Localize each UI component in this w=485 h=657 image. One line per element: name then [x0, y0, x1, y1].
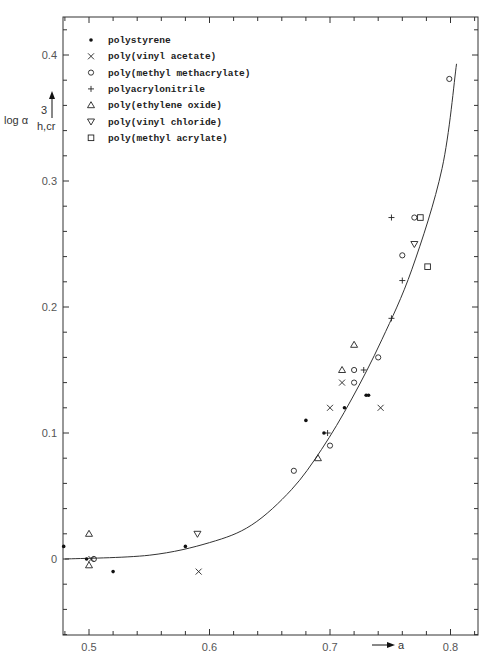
y-tick-label: 0.3 [42, 175, 57, 187]
triangle-up-marker-icon [339, 367, 346, 373]
y-tick-label: 0.4 [42, 49, 57, 61]
triangle-down-marker-icon [88, 119, 95, 125]
series-poly-methyl-acrylate- [418, 215, 431, 270]
triangle-up-marker-icon [86, 530, 93, 536]
circle-marker-icon [327, 443, 332, 448]
y-arrowhead-icon [49, 91, 55, 99]
square-marker-icon [418, 215, 424, 221]
legend: polystyrenepoly(vinyl acetate)poly(methy… [88, 35, 251, 144]
legend-label: poly(vinyl acetate) [108, 51, 216, 62]
circle-marker-icon [447, 76, 452, 81]
series-polystyrene [62, 393, 370, 573]
dot-marker-icon [343, 406, 347, 410]
dot-marker-icon [62, 545, 66, 549]
legend-label: polystyrene [108, 35, 171, 46]
circle-marker-icon [88, 70, 93, 75]
x-tick-label: 0.7 [322, 641, 337, 653]
square-marker-icon [88, 135, 94, 141]
circle-marker-icon [400, 253, 405, 258]
series-poly-vinyl-chloride- [194, 242, 418, 538]
y-tick-label: 0.2 [42, 301, 57, 313]
legend-item: poly(vinyl acetate) [88, 51, 216, 62]
triangle-up-marker-icon [88, 102, 95, 108]
legend-item: poly(methyl acrylate) [88, 133, 228, 144]
circle-marker-icon [352, 367, 357, 372]
legend-label: polyacrylonitrile [108, 84, 205, 95]
x-tick-label: 0.8 [443, 641, 458, 653]
series-poly-methyl-methacrylate- [91, 76, 452, 561]
circle-marker-icon [291, 468, 296, 473]
dot-marker-icon [89, 38, 93, 42]
legend-item: polystyrene [89, 35, 171, 46]
dot-marker-icon [111, 570, 115, 574]
circle-marker-icon [412, 215, 417, 220]
data-points [62, 76, 452, 574]
y-axis-label-sub: h,cr [37, 120, 56, 132]
legend-item: poly(ethylene oxide) [88, 100, 223, 111]
circle-marker-icon [376, 355, 381, 360]
legend-item: polyacrylonitrile [88, 84, 205, 95]
x-axis-label: a [398, 639, 405, 651]
series-polyacrylonitrile [325, 215, 406, 436]
y-tick-label: 0.1 [42, 427, 57, 439]
legend-label: poly(methyl acrylate) [108, 133, 228, 144]
legend-item: poly(vinyl chloride) [88, 117, 223, 128]
y-axis-label-sup: 3 [41, 104, 47, 116]
legend-label: poly(methyl methacrylate) [108, 68, 251, 79]
series-poly-vinyl-acetate- [88, 380, 383, 575]
circle-marker-icon [352, 380, 357, 385]
triangle-up-marker-icon [351, 341, 358, 347]
legend-label: poly(ethylene oxide) [108, 100, 222, 111]
dot-marker-icon [85, 557, 89, 561]
series-poly-ethylene-oxide- [86, 341, 358, 568]
dot-marker-icon [184, 545, 188, 549]
triangle-down-marker-icon [411, 242, 418, 248]
legend-label: poly(vinyl chloride) [108, 117, 222, 128]
triangle-up-marker-icon [86, 562, 93, 568]
x-tick-label: 0.6 [202, 641, 217, 653]
chart: 0.50.60.70.800.10.20.30.4 polystyrenepol… [0, 0, 485, 657]
x-arrowhead-icon [387, 642, 395, 648]
y-tick-label: 0 [51, 553, 57, 565]
dot-marker-icon [367, 393, 371, 397]
dot-marker-icon [304, 419, 308, 423]
y-axis-label: log α [4, 114, 29, 126]
triangle-down-marker-icon [194, 531, 201, 537]
legend-item: poly(methyl methacrylate) [88, 68, 250, 79]
square-marker-icon [425, 264, 431, 270]
x-tick-label: 0.5 [81, 641, 96, 653]
